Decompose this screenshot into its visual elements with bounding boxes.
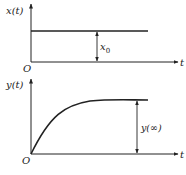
top-origin-label: O — [23, 63, 31, 74]
diagram-canvas: x(t) t O x0 y(t) t O y(∞) — [0, 0, 186, 175]
x0-label: x0 — [100, 41, 110, 55]
response-curve — [31, 100, 148, 154]
bottom-origin-label: O — [22, 155, 30, 166]
bottom-x-axis-label: t — [180, 149, 185, 160]
top-y-axis-label: x(t) — [6, 5, 24, 16]
step-response-diagram: x(t) t O x0 y(t) t O y(∞) — [0, 0, 186, 175]
steady-state-label: y(∞) — [140, 122, 162, 133]
top-x-axis-label: t — [180, 57, 185, 68]
bottom-plot: y(t) t O y(∞) — [5, 79, 185, 166]
bottom-y-axis-label: y(t) — [5, 79, 24, 90]
top-plot: x(t) t O x0 — [6, 4, 185, 74]
